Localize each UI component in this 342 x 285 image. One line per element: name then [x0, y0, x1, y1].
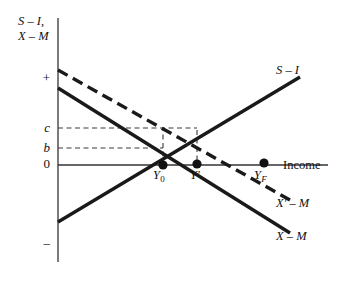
- economics-diagram: S – I, X – M + c b 0 – Income S – I X′ –…: [0, 0, 342, 285]
- curves-group: [58, 70, 300, 233]
- point-label-yf-base: Y: [254, 168, 261, 182]
- y-tick-c: c: [30, 120, 50, 136]
- y-axis-title-line2: X – M: [18, 29, 49, 44]
- guide-lines-group: [58, 128, 197, 165]
- y-tick-b: b: [30, 140, 50, 156]
- curve-label-x-minus-m: X – M: [276, 229, 307, 244]
- point-label-yf-subscript: F: [261, 174, 267, 184]
- y-tick-plus: +: [30, 70, 50, 86]
- point-yf-dot: [259, 158, 268, 167]
- point-label-yf: YF: [254, 168, 267, 184]
- point-label-y0-base: Y: [153, 168, 160, 182]
- y-tick-zero: 0: [30, 156, 50, 172]
- curve-s-minus-i: [58, 77, 300, 222]
- curve-label-s-minus-i: S – I: [276, 63, 299, 78]
- point-label-y-prime-base: Y′: [190, 168, 200, 182]
- x-axis-title-income: Income: [283, 158, 320, 173]
- point-label-y-prime: Y′: [190, 168, 200, 183]
- point-label-y0: Y0: [153, 168, 165, 184]
- y-tick-minus: –: [30, 235, 50, 251]
- y-axis-title-line1: S – I,: [18, 14, 49, 29]
- point-label-y0-subscript: 0: [160, 174, 165, 184]
- curve-label-x-prime-minus-m: X′ – M: [276, 196, 309, 211]
- y-axis-title: S – I, X – M: [18, 14, 49, 44]
- curve-x-minus-m: [58, 88, 290, 233]
